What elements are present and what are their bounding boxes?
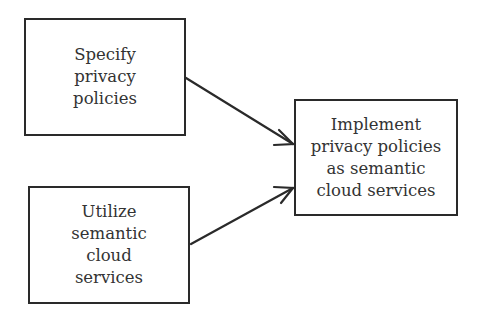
node-text-line: Implement [331, 114, 421, 136]
node-text-line: Utilize [82, 201, 137, 223]
arrow-utilize-to-implement [191, 187, 293, 244]
node-text-line: Specify [74, 44, 136, 66]
arrow-specify-to-implement [186, 78, 293, 145]
node-specify-privacy-policies: Specify privacy policies [24, 18, 186, 136]
node-text-line: services [75, 267, 143, 289]
node-text-line: privacy policies [311, 136, 442, 158]
node-text-line: cloud services [316, 180, 435, 202]
node-text-line: as semantic [326, 158, 425, 180]
node-utilize-semantic-cloud-services: Utilize semantic cloud services [28, 186, 190, 304]
node-text-line: cloud [86, 245, 132, 267]
node-text-line: privacy [74, 66, 135, 88]
node-text-line: semantic [71, 223, 147, 245]
node-text-line: policies [73, 88, 137, 110]
node-implement-privacy-policies: Implement privacy policies as semantic c… [294, 99, 458, 216]
flow-diagram: Specify privacy policies Utilize semanti… [0, 0, 478, 327]
